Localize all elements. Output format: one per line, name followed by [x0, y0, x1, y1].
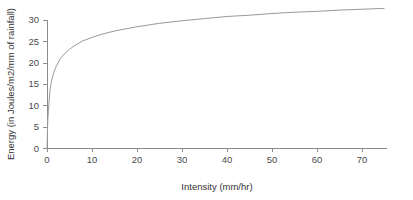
- y-axis-group: 051015202530: [28, 14, 47, 153]
- x-tick-label: 10: [87, 154, 98, 165]
- y-tick-label: 15: [28, 78, 39, 89]
- y-axis-tick-labels: 051015202530: [28, 14, 39, 153]
- x-axis-title: Intensity (mm/hr): [181, 181, 252, 192]
- x-tick-label: 50: [267, 154, 278, 165]
- y-axis-title: Energy (in Joules/m2/mm of rainfall): [5, 8, 16, 160]
- x-tick-label: 70: [357, 154, 368, 165]
- x-axis-group: 010203040506070: [44, 148, 387, 165]
- y-tick-label: 5: [34, 121, 39, 132]
- chart-plot-area: 051015202530 010203040506070 Intensity (…: [0, 0, 413, 200]
- data-series-line: [47, 8, 385, 148]
- x-tick-label: 20: [132, 154, 143, 165]
- x-tick-label: 60: [312, 154, 323, 165]
- y-axis-ticks: [43, 20, 47, 148]
- y-tick-label: 30: [28, 14, 39, 25]
- y-tick-label: 0: [34, 143, 39, 154]
- x-tick-label: 0: [44, 154, 49, 165]
- chart-figure: 051015202530 010203040506070 Intensity (…: [0, 0, 413, 200]
- y-tick-label: 10: [28, 100, 39, 111]
- x-tick-label: 30: [177, 154, 188, 165]
- x-axis-tick-labels: 010203040506070: [44, 154, 367, 165]
- y-tick-label: 25: [28, 36, 39, 47]
- y-tick-label: 20: [28, 57, 39, 68]
- x-tick-label: 40: [222, 154, 233, 165]
